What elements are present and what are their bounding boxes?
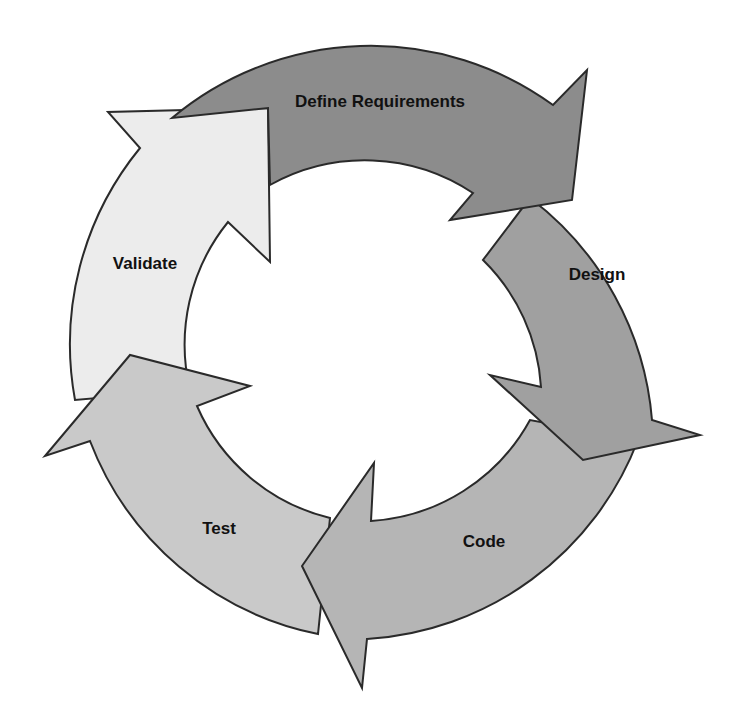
stage-label-code: Code bbox=[463, 532, 506, 552]
design-arrow bbox=[483, 198, 700, 460]
stage-label-design: Design bbox=[569, 265, 626, 285]
stage-label-validate: Validate bbox=[113, 254, 177, 274]
stage-label-define-requirements: Define Requirements bbox=[295, 92, 465, 112]
stage-label-test: Test bbox=[202, 519, 236, 539]
code-arrow bbox=[302, 420, 638, 688]
